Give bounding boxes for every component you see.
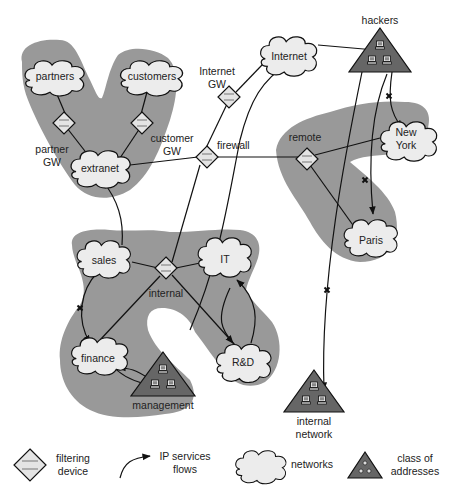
network-new-york-label-2: York (396, 139, 417, 151)
customer-gw-label-2: GW (163, 145, 181, 157)
address-class-hackers (349, 28, 411, 72)
legend-flows-label-1: IP services (159, 450, 210, 462)
legend-class-label-2: addresses (391, 465, 439, 477)
internal-network-label-1: internal (297, 415, 331, 427)
legend-flows-label-2: flows (173, 463, 197, 475)
legend-networks-label: networks (291, 458, 333, 470)
network-internet-label: Internet (271, 50, 307, 62)
partner-gw-label-2: GW (43, 156, 61, 168)
legend-triangle-icon (348, 452, 382, 478)
network-rnd-label: R&D (232, 356, 255, 368)
network-security-diagram: partners customers extranet Internet New… (0, 0, 459, 501)
network-extranet-label: extranet (81, 162, 119, 174)
filtering-device-firewall (196, 146, 218, 168)
network-finance-label: finance (81, 352, 115, 364)
legend-class-label-1: class of (397, 452, 433, 464)
legend: filtering device IP services flows netwo… (14, 449, 439, 484)
legend-filtering-label-2: device (58, 465, 89, 477)
network-customers-label: customers (128, 70, 176, 82)
network-sales-label: sales (92, 254, 117, 266)
network-new-york-label-1: New (395, 126, 416, 138)
partner-gw-label-1: partner (35, 143, 69, 155)
hackers-label: hackers (362, 14, 399, 26)
internal-network-label-2: network (296, 428, 334, 440)
internet-gw-label-2: GW (208, 78, 226, 90)
internal-label: internal (149, 287, 183, 299)
legend-flow-arrow-icon (120, 456, 150, 478)
remote-label: remote (289, 131, 322, 143)
legend-filtering-label-1: filtering (56, 452, 90, 464)
internet-gw-label-1: Internet (199, 65, 235, 77)
legend-cloud-icon (236, 451, 286, 484)
address-class-internal-network (284, 370, 344, 412)
management-label: management (132, 399, 193, 411)
customer-gw-label-1: customer (150, 132, 194, 144)
network-paris-label: Paris (359, 234, 383, 246)
legend-filtering-device-icon (14, 449, 46, 481)
firewall-label: firewall (217, 139, 250, 151)
network-partners-label: partners (36, 70, 75, 82)
network-it-label: IT (220, 253, 230, 265)
